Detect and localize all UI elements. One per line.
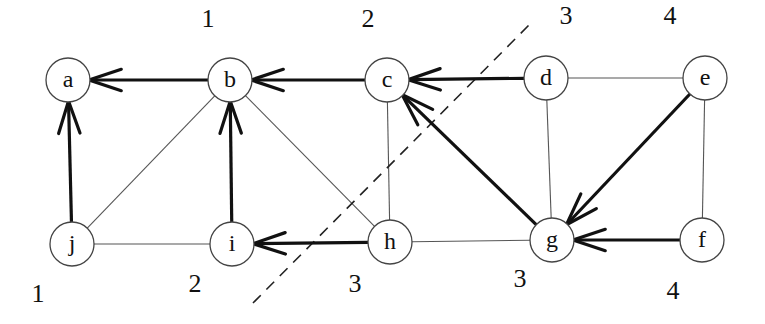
tree-edge-f-g bbox=[573, 229, 680, 250]
node-label: h bbox=[384, 228, 396, 254]
edge-b-j bbox=[87, 96, 214, 228]
tree-edge-e-g bbox=[566, 94, 689, 225]
edge-h-g bbox=[412, 240, 530, 241]
edge-b-h bbox=[245, 96, 374, 227]
distance-label-g: 3 bbox=[514, 264, 527, 293]
node-label: b bbox=[224, 66, 236, 92]
node-label: a bbox=[63, 66, 74, 92]
node-h: h bbox=[368, 220, 412, 264]
node-label: i bbox=[229, 230, 236, 256]
tree-edge-b-a bbox=[89, 69, 208, 90]
distance-label-e: 4 bbox=[664, 1, 677, 30]
distance-labels: 123412334 bbox=[32, 1, 680, 308]
node-a: a bbox=[46, 58, 90, 102]
node-b: b bbox=[208, 58, 252, 102]
tree-edge-h-i bbox=[253, 233, 368, 254]
node-g: g bbox=[530, 218, 574, 262]
distance-label-c: 2 bbox=[362, 4, 375, 33]
node-label: f bbox=[698, 226, 706, 252]
tree-edge-d-c bbox=[408, 69, 524, 90]
distance-label-j: 1 bbox=[32, 279, 45, 308]
tree-edge-i-b bbox=[220, 101, 241, 222]
distance-label-h: 3 bbox=[349, 269, 362, 298]
distance-label-f: 4 bbox=[667, 276, 680, 305]
graph-diagram: abcdejihgf 123412334 bbox=[0, 0, 765, 324]
node-label: d bbox=[540, 64, 552, 90]
tree-edge-c-b bbox=[251, 69, 365, 90]
non-tree-edges bbox=[87, 78, 704, 244]
distance-label-b: 1 bbox=[202, 4, 215, 33]
tree-edge-j-a bbox=[59, 101, 80, 222]
node-label: c bbox=[382, 66, 393, 92]
node-f: f bbox=[680, 218, 724, 262]
node-e: e bbox=[683, 56, 727, 100]
distance-label-i: 2 bbox=[189, 269, 202, 298]
node-label: j bbox=[68, 230, 76, 256]
distance-label-d: 3 bbox=[560, 1, 573, 30]
edge-c-h bbox=[387, 102, 389, 220]
edge-e-f bbox=[702, 100, 704, 218]
node-d: d bbox=[524, 56, 568, 100]
node-label: e bbox=[700, 64, 711, 90]
node-i: i bbox=[210, 222, 254, 266]
edge-d-g bbox=[547, 100, 551, 218]
node-j: j bbox=[50, 222, 94, 266]
tree-edge-g-c bbox=[402, 95, 536, 225]
node-c: c bbox=[365, 58, 409, 102]
node-label: g bbox=[546, 226, 558, 252]
